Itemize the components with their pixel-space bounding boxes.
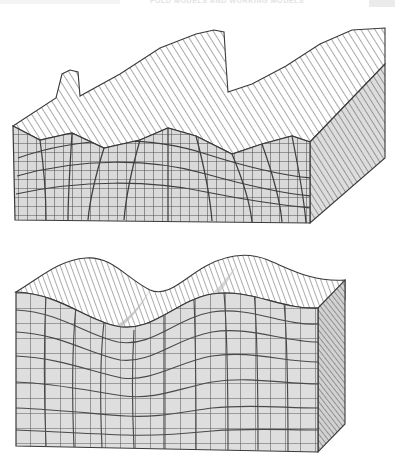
front-cut-face-2 — [16, 290, 318, 452]
right-side-face-2 — [318, 280, 345, 452]
block-diagram-coarse-mesh — [0, 248, 397, 465]
running-header: FOLD MODELS AND WORKING MODELS — [0, 0, 397, 8]
coarse-mesh-svg — [0, 248, 397, 465]
block-diagram-fine-mesh — [0, 8, 397, 230]
header-rule — [0, 0, 120, 4]
running-header-text: FOLD MODELS AND WORKING MODELS — [150, 0, 304, 4]
page-tab-marker — [369, 0, 395, 7]
fine-mesh-svg — [0, 8, 397, 230]
figure-page: FOLD MODELS AND WORKING MODELS — [0, 0, 397, 465]
